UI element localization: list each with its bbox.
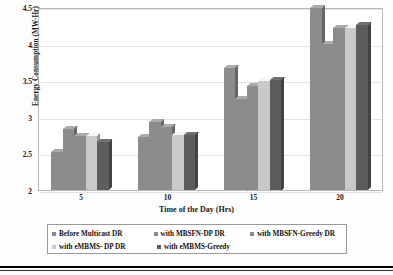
x-axis-tick-label: 20 — [336, 193, 344, 202]
bar — [270, 80, 282, 191]
legend-item: Before Multicast DR — [52, 230, 154, 238]
chart-figure: 22.533.544.5 Energy Consumption (MW-Hr) … — [0, 0, 393, 275]
legend-swatch-icon — [52, 245, 56, 249]
legend-label: with MBSFN-DP DR — [161, 230, 225, 238]
bar — [310, 8, 322, 190]
legend-row: with eMBMS- DP DRwith eMBMS-Greedy — [52, 240, 342, 253]
bar-face — [356, 25, 368, 190]
bar — [51, 152, 63, 190]
bar — [345, 28, 357, 190]
bar-face — [161, 127, 173, 190]
bar-face — [310, 8, 322, 190]
y-axis-title: Energy Consumption (MW-Hr) — [32, 0, 40, 116]
legend-item: with MBSFN-Greedy DR — [250, 230, 342, 238]
y-axis-ticks: 22.533.544.5 — [0, 0, 36, 191]
bar-face — [74, 136, 86, 190]
bar — [356, 25, 368, 190]
bar-side — [281, 77, 284, 191]
plot-area — [38, 8, 383, 191]
legend-swatch-icon — [157, 245, 161, 249]
x-axis-tick-label: 15 — [250, 193, 258, 202]
y-axis-tick-label: 3.5 — [23, 77, 32, 86]
page-rule — [0, 266, 393, 268]
bar — [161, 127, 173, 190]
bar-face — [149, 122, 161, 190]
bar-face — [270, 80, 282, 191]
bar-face — [172, 135, 184, 190]
bar-face — [333, 28, 345, 190]
bar-face — [184, 135, 196, 190]
bar — [322, 44, 334, 190]
bar — [138, 137, 150, 190]
legend-item: with eMBMS-Greedy — [157, 243, 257, 251]
bar-face — [224, 68, 236, 190]
legend-label: Before Multicast DR — [59, 230, 122, 238]
bar — [258, 81, 270, 190]
legend-swatch-icon — [154, 232, 158, 236]
bar-side — [368, 22, 371, 190]
legend-label: with eMBMS-Greedy — [164, 243, 230, 251]
bar-side — [195, 132, 198, 190]
x-axis-ticks: 5101520 — [38, 193, 383, 205]
chart-legend: Before Multicast DRwith MBSFN-DP DRwith … — [47, 224, 347, 254]
bar — [97, 142, 109, 190]
bar — [184, 135, 196, 190]
bar-face — [63, 129, 75, 191]
bar — [86, 136, 98, 190]
bar-face — [258, 81, 270, 190]
y-axis-tick-label: 2 — [28, 187, 32, 196]
bar-face — [322, 44, 334, 190]
bar-face — [235, 99, 247, 191]
bar — [74, 136, 86, 190]
legend-item: with eMBMS- DP DR — [52, 243, 157, 251]
legend-item: with MBSFN-DP DR — [154, 230, 251, 238]
bar-side — [109, 139, 112, 190]
bar — [172, 135, 184, 190]
y-axis-tick-label: 4.5 — [23, 4, 32, 13]
legend-label: with MBSFN-Greedy DR — [257, 230, 335, 238]
y-axis-tick-label: 2.5 — [23, 150, 32, 159]
bar-face — [97, 142, 109, 190]
x-axis-tick-label: 10 — [164, 193, 172, 202]
x-axis-title: Time of the Day (Hrs) — [0, 205, 393, 214]
bar — [235, 99, 247, 191]
bar-face — [138, 137, 150, 190]
bar — [149, 122, 161, 190]
page-rule-secondary — [0, 270, 393, 271]
legend-swatch-icon — [52, 232, 56, 236]
legend-row: Before Multicast DRwith MBSFN-DP DRwith … — [52, 227, 342, 240]
bar-face — [51, 152, 63, 190]
bar — [224, 68, 236, 190]
bar — [247, 86, 259, 190]
bar — [333, 28, 345, 190]
bar-face — [345, 28, 357, 190]
bar-face — [247, 86, 259, 190]
bar — [63, 129, 75, 191]
bars-layer — [39, 9, 382, 190]
bar-face — [86, 136, 98, 190]
legend-label: with eMBMS- DP DR — [59, 243, 125, 251]
x-axis-tick-label: 5 — [79, 193, 83, 202]
legend-swatch-icon — [250, 232, 254, 236]
